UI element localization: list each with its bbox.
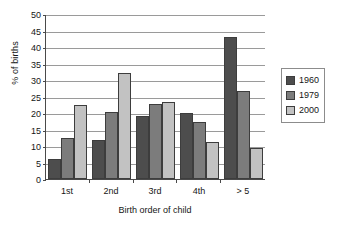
- x-axis-tick-label: 4th: [177, 186, 221, 196]
- bar-groups: [46, 15, 265, 179]
- bar: [105, 112, 118, 179]
- bar: [250, 148, 263, 179]
- legend-item: 1979: [286, 88, 319, 103]
- legend-swatch-icon: [286, 91, 295, 100]
- plot-area: 05101520253035404550: [45, 15, 265, 180]
- bar-group: [134, 15, 178, 179]
- x-axis-tick-label: 2nd: [89, 186, 133, 196]
- x-axis-tick-mark: [133, 179, 134, 183]
- bar-chart-figure: % of births 05101520253035404550 1st2nd3…: [0, 0, 339, 229]
- legend-label: 2000: [299, 106, 319, 115]
- y-axis-title: % of births: [10, 17, 20, 109]
- legend-item: 1960: [286, 73, 319, 88]
- bar-group: [90, 15, 134, 179]
- chart-legend: 196019792000: [281, 68, 325, 123]
- legend-label: 1979: [299, 91, 319, 100]
- x-axis-tick-label: > 5: [221, 186, 265, 196]
- legend-label: 1960: [299, 76, 319, 85]
- y-axis-tick-mark: [43, 180, 46, 181]
- x-axis-title: Birth order of child: [45, 205, 265, 215]
- bar: [224, 37, 237, 179]
- bar: [92, 140, 105, 179]
- bar: [237, 91, 250, 179]
- bar: [180, 113, 193, 179]
- x-axis-tick-mark: [176, 179, 177, 183]
- bar: [48, 159, 61, 179]
- x-axis-tick-labels: 1st2nd3rd4th> 5: [45, 186, 265, 196]
- x-axis-tick-label: 1st: [45, 186, 89, 196]
- x-axis-tick-mark: [89, 179, 90, 183]
- bar-group: [46, 15, 90, 179]
- bar: [74, 105, 87, 179]
- legend-item: 2000: [286, 103, 319, 118]
- x-axis-tick-label: 3rd: [133, 186, 177, 196]
- x-axis-tick-mark: [220, 179, 221, 183]
- bar: [206, 142, 219, 179]
- bar: [162, 102, 175, 179]
- legend-swatch-icon: [286, 76, 295, 85]
- bar: [118, 73, 131, 179]
- bar: [149, 104, 162, 179]
- bar-group: [177, 15, 221, 179]
- bar-group: [221, 15, 265, 179]
- bar: [193, 122, 206, 179]
- legend-swatch-icon: [286, 106, 295, 115]
- bar: [61, 138, 74, 179]
- bar: [136, 116, 149, 179]
